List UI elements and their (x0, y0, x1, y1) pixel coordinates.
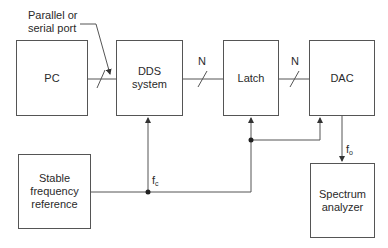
stable-frequency-reference-block: Stable frequency reference (18, 154, 91, 229)
dds-system-block: DDS system (116, 40, 183, 116)
reference-label-line2: frequency (30, 185, 78, 198)
latch-label: Latch (238, 72, 265, 85)
spectrum-label-line2: analyzer (322, 201, 364, 214)
pc-block: PC (16, 40, 88, 116)
spectrum-label-line1: Spectrum (319, 188, 366, 201)
junction-dot-fc (146, 190, 151, 195)
latch-block: Latch (223, 40, 279, 116)
junction-dot-latch (249, 138, 254, 143)
bus-width-label-1: N (198, 55, 206, 68)
pc-label: PC (44, 72, 59, 85)
clock-frequency-label: fc (152, 174, 159, 190)
port-label: Parallel or serial port (28, 9, 78, 35)
dac-block: DAC (309, 40, 375, 116)
dds-label-line2: system (132, 78, 167, 91)
dac-label: DAC (330, 72, 353, 85)
port-label-line1: Parallel or (28, 9, 78, 22)
dds-label-line1: DDS (138, 65, 161, 78)
reference-label-line1: Stable (39, 172, 70, 185)
port-label-line2: serial port (28, 22, 78, 35)
spectrum-analyzer-block: Spectrum analyzer (310, 163, 375, 238)
output-frequency-label: fo (346, 143, 353, 159)
reference-label-line3: reference (31, 198, 77, 211)
bus-width-label-2: N (291, 55, 299, 68)
